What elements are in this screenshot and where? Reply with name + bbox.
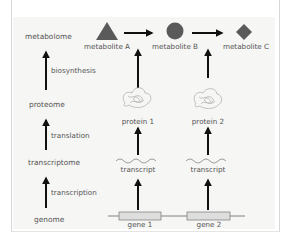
level-transcriptome: transcriptome <box>28 158 80 167</box>
transcript-2-label: transcript <box>191 165 226 174</box>
process-translation: translation <box>51 131 90 140</box>
metabolite-b-circle-icon <box>167 23 184 40</box>
metabolite-c-label: metabolite C <box>223 42 269 51</box>
gene-2-box <box>187 212 230 220</box>
metabolite-c-diamond-icon <box>236 24 252 40</box>
protein-1-label: protein 1 <box>122 117 154 126</box>
protein-2-label: protein 2 <box>192 117 224 126</box>
transcript-2-wave-icon <box>186 159 226 163</box>
metabolite-a-label: metabolite A <box>84 42 130 51</box>
level-metabolome: metabolome <box>25 32 72 41</box>
gene-1-label: gene 1 <box>128 220 153 229</box>
level-proteome: proteome <box>29 100 65 109</box>
omics-diagram: metabolome proteome transcriptome genome… <box>0 0 281 243</box>
protein-2-icon <box>194 89 221 109</box>
process-biosynthesis: biosynthesis <box>51 66 96 75</box>
transcript-1-label: transcript <box>121 165 156 174</box>
process-transcription: transcription <box>51 188 97 197</box>
level-genome: genome <box>34 215 65 224</box>
protein-1-icon <box>123 88 151 108</box>
transcript-1-wave-icon <box>116 159 156 163</box>
gene-2-label: gene 2 <box>197 220 222 229</box>
metabolite-a-triangle-icon <box>96 22 118 40</box>
gene-1-box <box>119 212 161 220</box>
metabolite-b-label: metabolite B <box>152 42 198 51</box>
